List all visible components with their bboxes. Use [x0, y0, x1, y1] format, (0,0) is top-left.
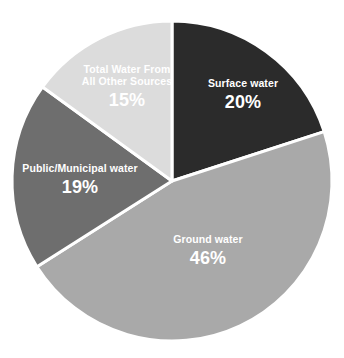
pie-chart-canvas	[0, 0, 344, 358]
pie-chart: Surface water 20% Ground water 46% Publi…	[0, 0, 344, 358]
pie-slices-group	[12, 21, 332, 341]
